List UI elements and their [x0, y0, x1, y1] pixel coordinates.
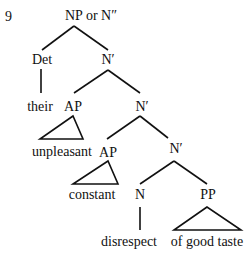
node-ofgoodtaste: of good taste: [171, 234, 243, 249]
example-number: 9: [5, 9, 12, 24]
branch-nbar1-to-nbar2: [108, 70, 140, 93]
node-their: their: [27, 99, 53, 114]
branch-root-to-det: [42, 26, 74, 50]
tree-canvas: 9 NP or N″DetN′theirAPN′unpleasantAPN′co…: [0, 0, 250, 256]
node-nbar3: N′: [169, 141, 182, 156]
node-unpleasant: unpleasant: [32, 144, 92, 159]
branch-nbar2-to-nbar3: [140, 116, 168, 138]
branch-nbar3-to-pp: [174, 161, 207, 184]
node-n: N: [135, 187, 145, 202]
node-ap2: AP: [99, 145, 117, 160]
branch-root-to-nbar1: [74, 26, 108, 50]
node-ap1: AP: [64, 99, 82, 114]
triangle-ap2: [73, 161, 118, 184]
triangle-ap1: [40, 116, 83, 139]
branch-nbar3-to-n: [140, 161, 174, 184]
tree-nodes: NP or N″DetN′theirAPN′unpleasantAPN′cons…: [27, 8, 243, 249]
node-nbar2: N′: [135, 99, 148, 114]
node-nbar1: N′: [101, 52, 114, 67]
node-root: NP or N″: [65, 8, 117, 23]
node-pp: PP: [200, 187, 216, 202]
branch-nbar1-to-ap1: [74, 70, 108, 93]
triangle-pp: [174, 207, 241, 230]
node-det: Det: [32, 52, 52, 67]
syntax-tree-diagram: 9 NP or N″DetN′theirAPN′unpleasantAPN′co…: [0, 0, 250, 256]
tree-edges: [41, 26, 207, 230]
node-constant: constant: [69, 187, 116, 202]
branch-nbar2-to-ap2: [107, 116, 140, 139]
node-disrespect: disrespect: [101, 234, 157, 249]
